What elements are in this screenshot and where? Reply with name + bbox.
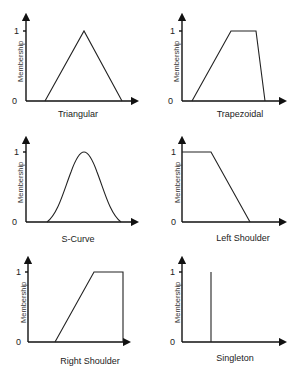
tick-label-0: 0 <box>16 337 21 347</box>
caption-trapezoidal: Trapezoidal <box>217 109 264 119</box>
membership-functions-diagram: 1 0 Membership Triangular 1 0 Membership… <box>0 0 296 376</box>
tick-label-1: 1 <box>14 26 19 36</box>
caption-left-shoulder: Left Shoulder <box>216 233 270 243</box>
caption-singleton: Singleton <box>216 353 254 363</box>
panel-s-curve: 1 0 Membership S-Curve <box>12 140 135 244</box>
y-axis-label: Membership <box>173 162 182 203</box>
triangular-curve <box>45 31 122 101</box>
panel-left-shoulder: 1 0 Membership Left Shoulder <box>171 140 283 243</box>
panel-singleton: 1 0 Membership Singleton <box>170 260 283 363</box>
panel-trapezoidal: 1 0 Membership Trapezoidal <box>168 17 283 119</box>
panel-triangular: 1 0 Membership Triangular <box>12 17 135 119</box>
panel-right-shoulder: 1 0 Membership Right Shoulder <box>16 260 127 366</box>
tick-label-1: 1 <box>14 147 19 157</box>
right-shoulder-curve <box>55 272 123 342</box>
tick-label-0: 0 <box>168 96 173 106</box>
caption-right-shoulder: Right Shoulder <box>60 356 120 366</box>
y-axis-label: Membership <box>16 41 25 82</box>
tick-label-1: 1 <box>171 147 176 157</box>
tick-label-0: 0 <box>170 337 175 347</box>
s-curve <box>47 152 121 222</box>
caption-s-curve: S-Curve <box>61 234 94 244</box>
tick-label-0: 0 <box>12 96 17 106</box>
caption-triangular: Triangular <box>58 109 98 119</box>
trapezoidal-curve <box>192 31 265 101</box>
tick-label-1: 1 <box>170 267 175 277</box>
y-axis-label: Membership <box>19 282 28 323</box>
y-axis-label: Membership <box>173 282 182 323</box>
y-axis-label: Membership <box>172 41 181 82</box>
tick-label-0: 0 <box>12 217 17 227</box>
tick-label-1: 1 <box>170 26 175 36</box>
y-axis-label: Membership <box>16 162 25 203</box>
tick-label-0: 0 <box>171 217 176 227</box>
tick-label-1: 1 <box>16 267 21 277</box>
left-shoulder-curve <box>182 152 250 222</box>
